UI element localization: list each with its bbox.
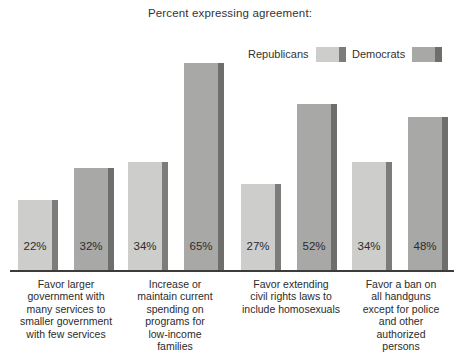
category-label-line: Favor larger bbox=[4, 278, 128, 290]
bar-side-shadow bbox=[442, 117, 448, 270]
category-label-line: all handguns bbox=[345, 290, 457, 302]
category-label-line: Increase or bbox=[118, 278, 232, 290]
category-label-line: Favor a ban on bbox=[345, 278, 457, 290]
bar-face bbox=[241, 184, 275, 270]
axis-baseline-group-2 bbox=[120, 270, 242, 272]
bar-democrats-group-4 bbox=[408, 117, 448, 270]
bar-face bbox=[128, 162, 162, 270]
category-label-1: Favor largergovernment withmany services… bbox=[4, 278, 128, 340]
bar-face bbox=[297, 104, 331, 270]
plot-area: 22%32%Favor largergovernment withmany se… bbox=[0, 0, 460, 363]
axis-baseline-group-1 bbox=[10, 270, 132, 272]
bar-republicans-group-4 bbox=[352, 162, 392, 270]
bar-republicans-group-2 bbox=[128, 162, 168, 270]
bar-side-shadow bbox=[275, 184, 281, 270]
bar-side-shadow bbox=[386, 162, 392, 270]
category-label-line: maintain current bbox=[118, 290, 232, 302]
bar-democrats-group-1 bbox=[74, 168, 114, 270]
category-label-line: spending on bbox=[118, 303, 232, 315]
bar-side-shadow bbox=[108, 168, 114, 270]
category-label-line: smaller government bbox=[4, 315, 128, 327]
category-label-line: civil rights laws to bbox=[232, 290, 350, 302]
bar-face bbox=[184, 63, 218, 270]
bar-face bbox=[352, 162, 386, 270]
category-label-3: Favor extendingcivil rights laws toinclu… bbox=[232, 278, 350, 315]
category-label-line: programs for bbox=[118, 315, 232, 327]
category-label-4: Favor a ban onall handgunsexcept for pol… bbox=[345, 278, 457, 352]
category-label-line: persons bbox=[345, 340, 457, 352]
category-label-line: include homosexuals bbox=[232, 303, 350, 315]
category-label-line: and other bbox=[345, 315, 457, 327]
bar-side-shadow bbox=[162, 162, 168, 270]
category-label-line: except for police bbox=[345, 303, 457, 315]
bar-side-shadow bbox=[218, 63, 224, 270]
bar-republicans-group-3 bbox=[241, 184, 281, 270]
bar-face bbox=[74, 168, 108, 270]
chart-container: Percent expressing agreement: Republican… bbox=[0, 0, 460, 363]
category-label-line: government with bbox=[4, 290, 128, 302]
bar-republicans-group-1 bbox=[18, 200, 58, 270]
category-label-line: low-income bbox=[118, 328, 232, 340]
bar-face bbox=[408, 117, 442, 270]
category-label-line: authorized bbox=[345, 328, 457, 340]
bar-side-shadow bbox=[331, 104, 337, 270]
axis-baseline-group-4 bbox=[344, 270, 454, 272]
bar-democrats-group-2 bbox=[184, 63, 224, 270]
category-label-2: Increase ormaintain currentspending onpr… bbox=[118, 278, 232, 352]
category-label-line: many services to bbox=[4, 303, 128, 315]
bar-democrats-group-3 bbox=[297, 104, 337, 270]
category-label-line: with few services bbox=[4, 328, 128, 340]
bar-face bbox=[18, 200, 52, 270]
category-label-line: Favor extending bbox=[232, 278, 350, 290]
axis-baseline-group-3 bbox=[233, 270, 355, 272]
bar-side-shadow bbox=[52, 200, 58, 270]
category-label-line: families bbox=[118, 340, 232, 352]
